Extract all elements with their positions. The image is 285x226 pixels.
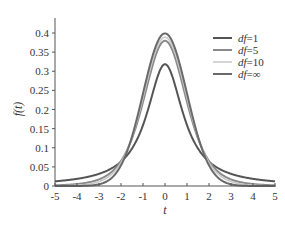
legend-label: df=1 [238, 32, 258, 44]
y-tick-label: 0.15 [30, 123, 50, 135]
x-tick-label: 5 [272, 190, 278, 202]
y-tick-label: 0.35 [30, 46, 50, 58]
y-tick-label: 0.2 [35, 104, 49, 116]
x-tick-label: -1 [138, 190, 147, 202]
x-tick-label: -4 [72, 190, 82, 202]
legend: df=1df=5df=10df=∞ [213, 32, 264, 80]
x-tick-label: 0 [162, 190, 168, 202]
curve-df1 [55, 64, 275, 181]
y-tick-label: 0.4 [35, 27, 49, 39]
y-tick-label: 0.3 [35, 65, 49, 77]
x-tick-label: 1 [184, 190, 190, 202]
y-axis-title: f(t) [11, 102, 25, 117]
x-tick-label: 4 [250, 190, 256, 202]
legend-label: df=∞ [238, 68, 261, 80]
y-ticks: 00.050.10.150.20.250.30.350.4 [30, 27, 55, 192]
y-tick-label: 0.25 [30, 84, 50, 96]
x-tick-label: -3 [94, 190, 104, 202]
x-tick-label: 3 [228, 190, 234, 202]
legend-label: df=5 [238, 44, 259, 56]
x-tick-label: -5 [50, 190, 60, 202]
legend-label: df=10 [238, 56, 264, 68]
t-distribution-chart: 00.050.10.150.20.250.30.350.4 -5-4-3-2-1… [0, 0, 285, 226]
x-tick-label: 2 [206, 190, 212, 202]
y-tick-label: 0.1 [35, 142, 49, 154]
y-tick-label: 0.05 [30, 161, 50, 173]
x-axis-title: t [163, 203, 167, 217]
x-tick-label: -2 [116, 190, 125, 202]
y-tick-label: 0 [44, 180, 50, 192]
